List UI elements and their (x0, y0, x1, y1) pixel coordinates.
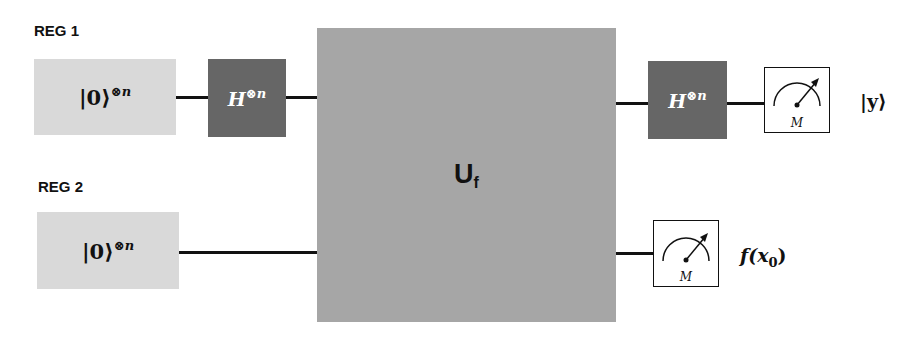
output-f-suffix: ) (778, 244, 787, 266)
reg1-label: REG 1 (34, 22, 79, 39)
oracle-gate-uf: Uf (317, 28, 616, 322)
wire-reg2-oracle-to-meter (616, 252, 653, 255)
measurement-meter-2: M (653, 220, 719, 287)
hadamard-2-label: H⊗n (668, 88, 706, 112)
output-f-prefix: f(x (740, 244, 769, 266)
hadamard-1-symbol: H (228, 88, 246, 110)
hadamard-gate-2: H⊗n (648, 61, 727, 139)
hadamard-2-symbol: H (668, 90, 686, 112)
hadamard-1-exponent: ⊗n (246, 86, 266, 101)
meter-2-label: M (654, 270, 718, 284)
reg1-tensor-exponent: ⊗n (111, 84, 131, 99)
reg2-init-state-box: |0⟩⊗n (37, 212, 179, 289)
reg2-label: REG 2 (38, 178, 83, 195)
hadamard-gate-1: H⊗n (208, 59, 286, 137)
reg1-init-state-box: |0⟩⊗n (34, 59, 176, 135)
measurement-meter-1: M (764, 67, 830, 133)
hadamard-2-exponent: ⊗n (686, 88, 706, 103)
hadamard-1-label: H⊗n (228, 86, 266, 110)
oracle-symbol: U (454, 159, 474, 189)
output-y-ket: |y⟩ (860, 90, 887, 112)
meter-1-label: M (765, 116, 829, 130)
reg2-init-state: |0⟩⊗n (82, 238, 134, 264)
wire-reg2-init-to-oracle (179, 251, 317, 254)
output-f-x0: f(x0) (740, 244, 787, 270)
reg2-ket: |0⟩ (82, 239, 114, 264)
oracle-label: Uf (454, 159, 479, 192)
output-f-subscript: 0 (769, 255, 778, 270)
oracle-subscript: f (474, 174, 479, 191)
wire-reg1-h-to-oracle (286, 96, 317, 99)
reg2-tensor-exponent: ⊗n (114, 238, 134, 253)
reg1-init-state: |0⟩⊗n (79, 84, 131, 110)
wire-reg1-init-to-h (176, 96, 208, 99)
wire-reg1-h-to-meter (727, 102, 764, 105)
wire-reg1-oracle-to-h (616, 102, 648, 105)
reg1-ket: |0⟩ (79, 85, 111, 110)
